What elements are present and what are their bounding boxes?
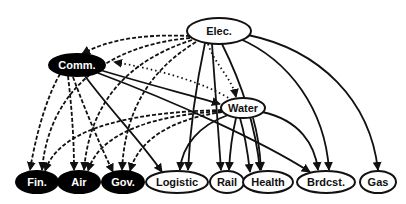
node-gas: Gas	[360, 171, 396, 193]
node-rail: Rail	[210, 171, 244, 193]
node-fin: Fin.	[16, 171, 58, 193]
node-comm: Comm.	[49, 54, 105, 76]
node-fin-label: Fin.	[27, 176, 47, 188]
node-comm-label: Comm.	[58, 59, 95, 71]
node-water: Water	[221, 98, 265, 118]
node-air: Air	[58, 171, 100, 193]
edge-water-health	[240, 118, 250, 172]
edge-comm-logistic	[85, 76, 162, 172]
node-air-label: Air	[71, 176, 87, 188]
edge-water-rail	[229, 118, 236, 170]
edge-elec-rail	[212, 44, 221, 170]
edge-comm-brdcst	[98, 73, 310, 172]
node-gov-label: Gov.	[111, 176, 135, 188]
dependency-diagram: Elec. Comm. Water Fin. Air Gov. Logistic	[0, 0, 406, 204]
edge-elec-comm	[82, 36, 190, 54]
node-health-label: Health	[251, 176, 285, 188]
edge-elec-logistic	[188, 43, 205, 170]
node-water-label: Water	[228, 102, 259, 114]
node-brdcst-label: Brdcst.	[307, 176, 345, 188]
node-elec: Elec.	[187, 18, 251, 44]
edge-water-gov	[130, 112, 222, 171]
node-gov: Gov.	[102, 171, 144, 193]
edge-comm-fin	[30, 74, 60, 170]
node-health: Health	[243, 171, 293, 193]
edge-comm-water	[100, 70, 220, 104]
nodes-layer: Elec. Comm. Water Fin. Air Gov. Logistic	[16, 18, 396, 193]
node-elec-label: Elec.	[206, 25, 232, 37]
edge-water-brdcst	[262, 112, 318, 170]
node-rail-label: Rail	[217, 176, 237, 188]
node-logistic-label: Logistic	[156, 176, 198, 188]
edge-comm-air	[68, 76, 74, 170]
node-gas-label: Gas	[368, 176, 389, 188]
node-logistic: Logistic	[146, 171, 208, 193]
node-brdcst: Brdcst.	[297, 171, 355, 193]
